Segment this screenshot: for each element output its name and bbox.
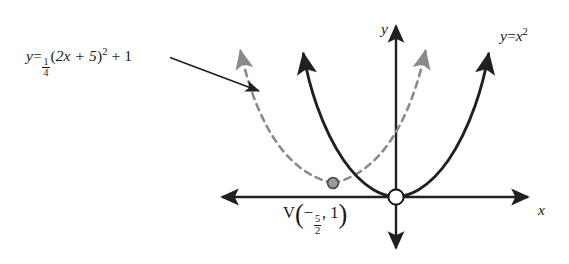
parent-eq-rhs-base: x xyxy=(516,27,523,44)
eq-plus-one: + 1 xyxy=(112,47,133,64)
vertex-minus-sign: − xyxy=(304,203,313,222)
parabola-transformation-figure: y=14(2x + 5)2 + 1 y=x2 y x V(−52, 1) xyxy=(0,0,569,264)
eq-inner-expression: 2x + 5 xyxy=(56,47,97,64)
vertex-close-paren: ) xyxy=(339,204,348,225)
transformed-parabola-left-branch xyxy=(241,51,333,183)
vertex-frac-denominator: 2 xyxy=(314,225,322,237)
parent-eq-equals: = xyxy=(507,27,516,44)
vertex-y-value: 1 xyxy=(330,203,338,222)
transformed-equation-label: y=14(2x + 5)2 + 1 xyxy=(26,47,132,78)
vertex-coordinate-label: V(−52, 1) xyxy=(283,203,347,237)
parent-equation-label: y=x2 xyxy=(500,27,528,45)
vertex-open-paren: ( xyxy=(295,204,304,225)
eq-fraction: 14 xyxy=(42,57,49,78)
vertex-name: V xyxy=(283,203,295,222)
parent-eq-lhs: y xyxy=(500,27,507,44)
eq-frac-numerator: 1 xyxy=(42,57,49,67)
vertex-x-fraction: 52 xyxy=(314,214,322,237)
eq-frac-denominator: 4 xyxy=(42,67,49,78)
transformed-parabola-curve xyxy=(241,51,426,183)
eq-equals: = xyxy=(33,47,42,64)
eq-lhs: y xyxy=(26,47,33,64)
axis-group xyxy=(222,26,528,248)
vertex-frac-numerator: 5 xyxy=(314,214,322,225)
y-axis-label: y xyxy=(381,20,388,38)
x-axis-label: x xyxy=(538,201,545,219)
origin-point-marker xyxy=(388,189,403,204)
parent-parabola-left-branch xyxy=(303,54,396,197)
parent-parabola-right-branch xyxy=(396,54,489,197)
parent-eq-rhs-exponent: 2 xyxy=(523,26,528,37)
vertex-point-marker xyxy=(328,178,339,189)
